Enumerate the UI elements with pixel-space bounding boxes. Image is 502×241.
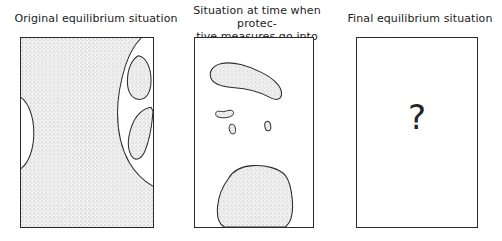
lower-stippled-island bbox=[128, 107, 153, 159]
panel-1-graphic bbox=[21, 38, 153, 227]
panel-final-equilibrium: ? bbox=[356, 37, 478, 228]
panel-2-graphic bbox=[195, 38, 313, 227]
panel-original-equilibrium bbox=[20, 37, 154, 228]
question-mark: ? bbox=[357, 100, 477, 134]
upper-stippled-island bbox=[127, 56, 151, 100]
top-banana-blob bbox=[210, 63, 281, 100]
small-hook-blob bbox=[216, 110, 234, 118]
panel-protective-measures bbox=[194, 37, 314, 228]
panel-3-caption: Final equilibrium situation bbox=[340, 12, 500, 25]
bottom-large-blob bbox=[217, 165, 292, 227]
tiny-oval-blob-left bbox=[228, 124, 236, 135]
figure-root: Original equilibrium situation Situation… bbox=[0, 0, 502, 241]
panel-1-caption: Original equilibrium situation bbox=[8, 12, 184, 25]
tiny-oval-blob-right bbox=[264, 121, 271, 131]
